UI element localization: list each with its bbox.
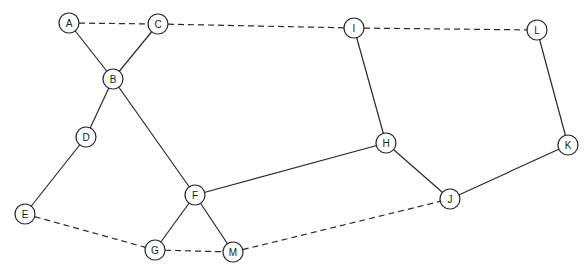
- node-label: L: [534, 25, 540, 36]
- node-label: D: [82, 132, 89, 143]
- graph-diagram: ACBDEFGMILHKJ: [0, 0, 586, 268]
- edge-d-e: [25, 137, 86, 214]
- node-k: K: [558, 135, 578, 155]
- node-label: H: [382, 138, 389, 149]
- edge-h-i: [354, 28, 386, 143]
- node-e: E: [15, 204, 35, 224]
- node-label: I: [353, 23, 356, 34]
- node-b: B: [103, 69, 123, 89]
- node-g: G: [145, 240, 165, 260]
- edge-i-l: [354, 28, 537, 30]
- edge-j-k: [450, 145, 568, 199]
- edge-c-i: [158, 24, 354, 28]
- edges-layer: [25, 23, 568, 252]
- node-m: M: [223, 242, 243, 262]
- edge-c-b: [113, 24, 158, 79]
- edge-h-j: [386, 143, 450, 199]
- node-a: A: [59, 13, 79, 33]
- edge-a-b: [69, 23, 113, 79]
- edge-k-l: [537, 30, 568, 145]
- nodes-layer: ACBDEFGMILHKJ: [15, 13, 578, 262]
- node-i: I: [344, 18, 364, 38]
- node-h: H: [376, 133, 396, 153]
- node-j: J: [440, 189, 460, 209]
- node-label: C: [154, 19, 161, 30]
- node-f: F: [185, 185, 205, 205]
- node-label: A: [66, 18, 73, 29]
- edge-f-h: [195, 143, 386, 195]
- edge-e-g: [25, 214, 155, 250]
- node-label: G: [151, 245, 159, 256]
- node-d: D: [76, 127, 96, 147]
- node-label: K: [565, 140, 572, 151]
- edge-g-m: [155, 250, 233, 252]
- edge-b-f: [113, 79, 195, 195]
- node-label: M: [229, 247, 237, 258]
- edge-m-j: [233, 199, 450, 252]
- node-label: J: [448, 194, 453, 205]
- node-label: F: [192, 190, 198, 201]
- node-label: E: [22, 209, 29, 220]
- node-label: B: [110, 74, 117, 85]
- edge-a-c: [69, 23, 158, 24]
- node-c: C: [148, 14, 168, 34]
- node-l: L: [527, 20, 547, 40]
